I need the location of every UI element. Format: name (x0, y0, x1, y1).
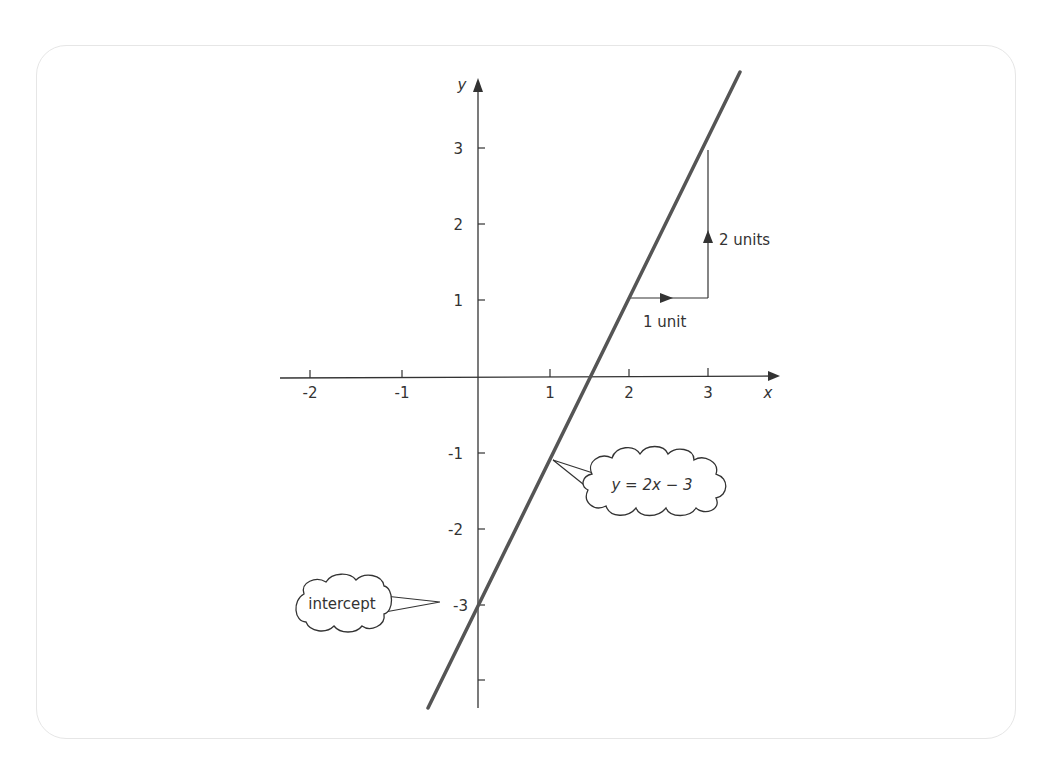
equation-callout: y = 2x − 3 (553, 447, 726, 516)
rise-arrow-icon (703, 230, 713, 243)
graph-line (428, 72, 740, 708)
y-tick-label: -3 (453, 597, 468, 615)
y-tick-label: 3 (453, 140, 463, 158)
y-tick-label: -2 (448, 521, 463, 539)
x-axis-label: x (763, 384, 773, 402)
rise-label: 2 units (719, 231, 770, 249)
x-axis-arrow-icon (768, 371, 780, 381)
x-tick-label: -1 (395, 384, 410, 402)
slope-triangle: 1 unit 2 units (630, 150, 770, 331)
x-tick-label: 1 (545, 384, 555, 402)
equation-label: y = 2x − 3 (610, 476, 692, 494)
intercept-callout: intercept (296, 574, 440, 632)
run-label: 1 unit (643, 313, 686, 331)
y-axis-label: y (457, 76, 468, 94)
y-axis-arrow-icon (473, 78, 483, 92)
x-tick-label: 3 (703, 384, 713, 402)
linear-graph: -2 -1 1 2 3 x 3 2 1 -1 -2 -3 y 1 unit 2 … (0, 0, 1047, 768)
x-tick-label: -2 (303, 384, 318, 402)
y-tick-label: 1 (453, 292, 463, 310)
x-tick-label: 2 (624, 384, 634, 402)
y-tick-label: 2 (453, 216, 463, 234)
y-tick-label: -1 (448, 445, 463, 463)
intercept-label: intercept (308, 595, 376, 613)
x-axis: -2 -1 1 2 3 x (280, 368, 780, 402)
y-axis: 3 2 1 -1 -2 -3 y (448, 76, 485, 708)
run-arrow-icon (660, 293, 673, 303)
